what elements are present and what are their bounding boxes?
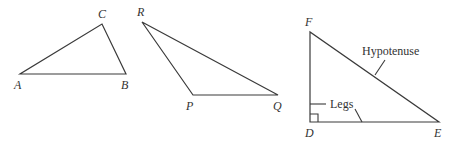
vertex-label-e: E	[433, 126, 442, 140]
triangle-pqr: P Q R	[136, 5, 282, 113]
triangle-abc: A B C	[13, 7, 129, 92]
vertex-label-r: R	[136, 5, 145, 19]
vertex-label-b: B	[121, 78, 129, 92]
triangle-def: Legs Hypotenuse D E F	[304, 15, 442, 140]
legs-label: Legs	[330, 97, 354, 111]
vertex-label-f: F	[304, 15, 313, 29]
triangle-pqr-outline	[142, 22, 278, 95]
triangles-diagram: A B C P Q R Legs Hypotenuse D E F	[0, 0, 461, 145]
vertex-label-p: P	[185, 99, 194, 113]
vertex-label-d: D	[304, 126, 314, 140]
vertex-label-a: A	[13, 78, 22, 92]
legs-leader-horizontal	[355, 109, 362, 122]
hypotenuse-leader	[375, 60, 385, 75]
vertex-label-c: C	[98, 7, 107, 21]
triangle-abc-outline	[20, 24, 126, 74]
vertex-label-q: Q	[273, 99, 282, 113]
hypotenuse-label: Hypotenuse	[362, 44, 419, 58]
right-angle-marker-icon	[310, 114, 318, 122]
